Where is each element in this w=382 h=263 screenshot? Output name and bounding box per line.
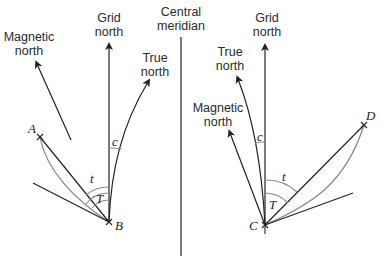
left-magnetic-north-label-1: Magnetic: [4, 30, 55, 44]
right-magnetic-north-label-1: Magnetic: [193, 101, 244, 115]
right-true-north-label-2: north: [216, 59, 245, 73]
left-ab-line: [40, 137, 109, 222]
left-magnetic-north-arrow: [37, 64, 71, 140]
right-t-arc: [265, 180, 297, 192]
left-grid-north-label-2: north: [95, 25, 124, 39]
central-meridian-label-2: meridian: [157, 19, 205, 33]
right-point-d-label: D: [365, 108, 376, 123]
right-grid-north-label-2: north: [253, 25, 282, 39]
right-angle-c-label: c: [257, 129, 263, 144]
right-angle-T-label: T: [269, 197, 277, 212]
central-meridian-label-1: Central: [161, 5, 201, 19]
right-angle-t-label: t: [282, 169, 286, 184]
right-magnetic-north-arrow: [230, 133, 265, 225]
right-figure: [230, 47, 367, 234]
left-point-b-label: B: [115, 218, 123, 233]
left-figure: [33, 46, 148, 225]
right-magnetic-north-label-2: north: [204, 115, 233, 129]
left-true-north-arrow: [109, 82, 148, 222]
right-tangent-line: [265, 193, 353, 225]
left-point-a-label: A: [27, 121, 36, 136]
left-angle-t-label: t: [90, 171, 94, 186]
right-grid-north-label-1: Grid: [255, 11, 279, 25]
right-point-c-label: C: [249, 218, 258, 233]
left-magnetic-north-label-2: north: [15, 44, 44, 58]
right-cd-line: [265, 125, 364, 225]
left-true-north-label-2: north: [141, 65, 170, 79]
diagram-canvas: Central meridian Grid north True north M…: [0, 0, 382, 263]
left-true-north-label-1: True: [142, 51, 167, 65]
left-grid-north-label-1: Grid: [97, 11, 121, 25]
left-angle-T-label: T: [96, 191, 104, 206]
left-angle-c-label: c: [112, 134, 118, 149]
right-true-north-label-1: True: [217, 45, 242, 59]
